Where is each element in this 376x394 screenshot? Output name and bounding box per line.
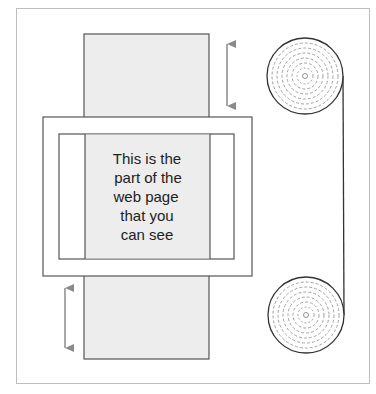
- scrolling-diagram: This is the part of the web page that yo…: [0, 0, 376, 394]
- top-roll-icon: [267, 38, 343, 114]
- viewport-caption: This is the part of the web page that yo…: [112, 150, 181, 243]
- caption-line-1: This is the: [113, 150, 181, 167]
- bottom-roll-icon: [268, 277, 344, 353]
- caption-line-4: that you: [120, 207, 173, 224]
- caption-line-5: can see: [121, 226, 174, 243]
- caption-line-2: part of the: [114, 169, 182, 186]
- caption-line-3: web page: [112, 188, 178, 205]
